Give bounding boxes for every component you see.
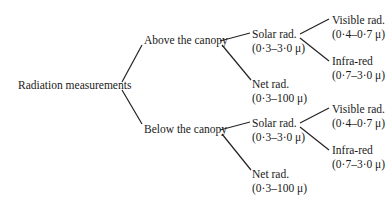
below-canopy-label: Below the canopy [144, 122, 227, 136]
above-infrared-node: Infra-red (0·7–3·0 μ) [332, 54, 385, 82]
above-net-label: Net rad. [252, 77, 307, 91]
above-canopy-label: Above the canopy [144, 33, 228, 47]
above-canopy-node: Above the canopy [144, 33, 228, 47]
root-node: Radiation measurements [18, 78, 131, 92]
above-solar-node: Solar rad. (0·3–3·0 μ) [252, 27, 305, 55]
connector-above-net [222, 45, 251, 80]
below-visible-label: Visible rad. [332, 102, 385, 116]
above-infrared-label: Infra-red [332, 54, 385, 68]
above-infrared-range: (0·7–3·0 μ) [332, 68, 385, 82]
connector-below-net [222, 134, 251, 170]
below-net-node: Net rad. (0·3–100 μ) [252, 167, 307, 195]
above-net-node: Net rad. (0·3–100 μ) [252, 77, 307, 105]
below-solar-label: Solar rad. [252, 116, 305, 130]
below-infrared-label: Infra-red [332, 143, 385, 157]
above-net-range: (0·3–100 μ) [252, 91, 307, 105]
below-infrared-node: Infra-red (0·7–3·0 μ) [332, 143, 385, 171]
above-solar-label: Solar rad. [252, 27, 305, 41]
below-solar-range: (0·3–3·0 μ) [252, 130, 305, 144]
below-visible-range: (0·4–0·7 μ) [332, 116, 385, 130]
below-net-label: Net rad. [252, 167, 307, 181]
above-solar-range: (0·3–3·0 μ) [252, 41, 305, 55]
connector-root-above [122, 45, 142, 82]
below-visible-node: Visible rad. (0·4–0·7 μ) [332, 102, 385, 130]
above-visible-range: (0·4–0·7 μ) [332, 27, 385, 41]
above-visible-node: Visible rad. (0·4–0·7 μ) [332, 13, 385, 41]
root-label: Radiation measurements [18, 78, 131, 92]
below-solar-node: Solar rad. (0·3–3·0 μ) [252, 116, 305, 144]
above-visible-label: Visible rad. [332, 13, 385, 27]
below-infrared-range: (0·7–3·0 μ) [332, 157, 385, 171]
below-canopy-node: Below the canopy [144, 122, 227, 136]
below-net-range: (0·3–100 μ) [252, 181, 307, 195]
radiation-measurement-tree: Radiation measurements Above the canopy … [0, 0, 392, 204]
connector-root-below [122, 90, 142, 124]
